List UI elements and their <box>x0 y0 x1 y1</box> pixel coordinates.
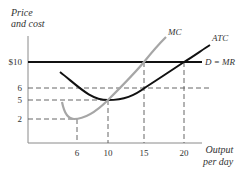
x-axis-label: Output per day <box>203 144 233 168</box>
atc-label: ATC <box>212 33 228 43</box>
dashed-guides <box>28 62 212 143</box>
x-axis-label-line1: Output <box>203 144 233 156</box>
mc-label: MC <box>168 27 182 37</box>
y-tick-2: 2 <box>0 114 22 124</box>
demand-mr-label: D = MR <box>205 57 235 67</box>
x-tick-10: 10 <box>98 148 118 158</box>
y-tick-6: 6 <box>0 83 22 93</box>
y-axis-label: Price and cost <box>11 7 45 29</box>
y-tick-5: 5 <box>0 95 22 105</box>
y-tick-10: $10 <box>0 57 22 67</box>
y-axis-label-line1: Price <box>11 7 45 18</box>
x-tick-6: 6 <box>67 148 87 158</box>
x-axis-label-line2: per day <box>203 156 233 168</box>
x-tick-20: 20 <box>174 148 194 158</box>
cost-curves-chart: Price and cost $10 6 5 2 6 10 15 20 Outp… <box>0 0 246 172</box>
x-tick-15: 15 <box>134 148 154 158</box>
y-axis-label-line2: and cost <box>11 18 45 29</box>
mc-curve <box>62 37 166 119</box>
